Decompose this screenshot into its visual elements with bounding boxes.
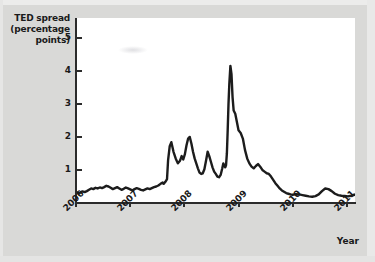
ted-spread-line — [76, 66, 354, 197]
y-axis-line — [75, 18, 77, 204]
page-edge-right — [367, 0, 375, 262]
y-tick-label-2: 2 — [55, 131, 71, 141]
x-tick-mark-2006 — [75, 203, 77, 207]
y-tick-label-1: 1 — [55, 164, 71, 174]
x-tick-mark-2010 — [292, 203, 294, 207]
x-tick-mark-2011 — [346, 203, 348, 207]
y-tick-label-4: 4 — [55, 65, 71, 75]
page-edge-top — [0, 0, 375, 5]
y-axis-title-line-1: TED spread — [4, 13, 70, 24]
x-axis-title: Year — [337, 236, 359, 246]
data-line-svg — [76, 18, 355, 203]
y-tick-mark-3 — [77, 103, 82, 105]
x-tick-mark-2008 — [183, 203, 185, 207]
x-tick-mark-2009 — [238, 203, 240, 207]
page-edge-left — [0, 0, 3, 262]
plot-area — [76, 18, 355, 203]
chart-figure: TED spread (percentage points) 12345 200… — [0, 0, 375, 262]
y-tick-mark-4 — [77, 70, 82, 72]
x-tick-mark-2007 — [129, 203, 131, 207]
y-tick-label-5: 5 — [55, 32, 71, 42]
y-tick-label-3: 3 — [55, 98, 71, 108]
page-edge-bottom — [0, 256, 375, 262]
y-tick-mark-5 — [77, 37, 82, 39]
y-tick-mark-1 — [77, 169, 82, 171]
y-tick-mark-2 — [77, 136, 82, 138]
